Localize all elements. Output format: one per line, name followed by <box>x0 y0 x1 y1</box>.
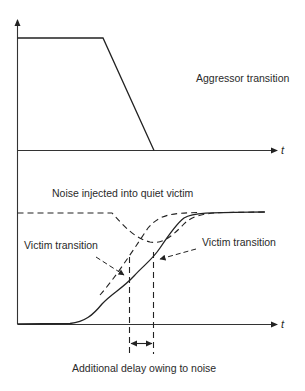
victim-left-pointer <box>96 257 124 275</box>
noise-label: Noise injected into quiet victim <box>52 187 193 199</box>
crosstalk-timing-diagram: t Aggressor transition t Noise injected … <box>0 0 305 391</box>
victim-noisy-waveform <box>18 212 266 324</box>
aggressor-panel: t Aggressor transition <box>18 38 290 156</box>
delay-arrow-right-head <box>146 341 153 347</box>
victim-ideal-waveform <box>100 213 200 296</box>
aggressor-waveform <box>18 38 155 151</box>
delay-double-arrow <box>131 341 153 347</box>
aggressor-label: Aggressor transition <box>196 72 290 84</box>
victim-right-pointer <box>160 249 196 259</box>
top-axis-t-label: t <box>281 144 285 156</box>
delay-label: Additional delay owing to noise <box>72 362 216 374</box>
delay-arrow-left-head <box>131 341 138 347</box>
victim-panel: t Noise injected into quiet victim Victi… <box>18 187 286 374</box>
diagram-canvas: t Aggressor transition t Noise injected … <box>0 0 305 391</box>
bottom-axis-t-label: t <box>281 318 285 330</box>
victim-right-label: Victim transition <box>202 236 276 248</box>
victim-left-label: Victim transition <box>24 239 98 251</box>
